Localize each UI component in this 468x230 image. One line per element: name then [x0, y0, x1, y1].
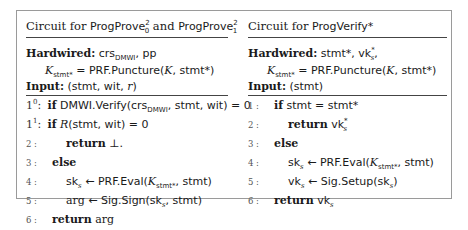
k-symbol: K: [267, 64, 275, 77]
hardwired-value: stmt*, vk*s,: [317, 47, 378, 60]
sub: s: [344, 125, 348, 133]
sup: 1: [33, 117, 37, 125]
algorithm-figure: Circuit for ProgProve20 and ProgProve21 …: [16, 10, 452, 199]
arg: arg: [92, 213, 114, 226]
code-tail: , stmt): [397, 156, 433, 169]
right-circuit-panel: Circuit for ProgVerify* Hardwired: stmt*…: [248, 11, 447, 210]
rest: , pp: [135, 47, 156, 60]
input-close: ): [132, 80, 136, 93]
keyword: else: [274, 137, 298, 150]
sub: stmt*: [156, 182, 175, 190]
prog-name-text: ProgProve: [178, 20, 233, 33]
hardwired-value: crsDMWI, pp: [99, 47, 157, 60]
line-number: 2 :: [26, 135, 52, 154]
right-panel-title: Circuit for ProgVerify*: [248, 15, 447, 38]
code-line-1-1: 11: if R(stmt, wit) = 0: [26, 115, 228, 134]
input-value: (stmt, wit,: [64, 80, 127, 93]
input-line: Input: (stmt, wit, r): [26, 79, 228, 96]
prog-name: ProgVerify*: [312, 20, 373, 33]
k-symbol: K: [45, 64, 53, 77]
input-line: Input: (stmt): [248, 79, 447, 96]
key-puncture-line: Kstmt* = PRF.Puncture(K, stmt*): [248, 62, 447, 79]
line-number: 6 :: [248, 192, 274, 211]
prog-name: ProgProve21: [178, 20, 237, 33]
code-tail: ): [393, 175, 397, 188]
code-line-4: 4 :sks ← PRF.Eval(Kstmt*, stmt): [26, 172, 228, 191]
code-text: DMWI.Verify(crs: [60, 99, 147, 112]
keyword: if: [48, 99, 57, 112]
code-mid: ← Sig.Setup(sk: [304, 175, 389, 188]
code-mid: ← PRF.Eval(: [304, 156, 370, 169]
hardwired-line: Hardwired: stmt*, vk*s,: [248, 45, 447, 62]
code: ⊥.: [106, 137, 123, 150]
hardwired-line: Hardwired: crsDMWI, pp: [26, 45, 228, 62]
line-number: 3 :: [248, 135, 274, 154]
line-number: 2 :: [248, 116, 274, 135]
code-line-3: 3 :else: [248, 134, 447, 153]
keyword: return: [288, 118, 328, 131]
k-symbol: K: [370, 156, 378, 169]
hardwired-label: Hardwired:: [248, 47, 317, 60]
keyword: if: [274, 99, 283, 112]
left-panel-title: Circuit for ProgProve20 and ProgProve21: [26, 15, 228, 38]
k-symbol: K: [148, 175, 156, 188]
code-line-5: 5 :vks ← Sig.Setup(sks): [248, 172, 447, 191]
sub: DMWI: [115, 54, 135, 62]
line-number: 5 :: [26, 192, 52, 211]
sub: stmt*: [275, 71, 294, 79]
code: (stmt, wit) = 0: [68, 118, 148, 131]
sup: 0: [33, 98, 37, 106]
sub: stmt*: [378, 163, 397, 171]
title-and: and: [149, 19, 178, 33]
sub: stmt*: [53, 71, 72, 79]
sub: 1: [233, 27, 237, 35]
k-tail: , stmt*): [173, 64, 215, 77]
arg: arg: [66, 194, 85, 207]
line-number: 11:: [26, 115, 44, 134]
k-eq: = PRF.Puncture(: [295, 64, 387, 77]
input-label: Input:: [26, 80, 64, 93]
code: vk: [328, 118, 344, 131]
code-mid: ← PRF.Eval(: [82, 175, 148, 188]
keyword: return: [274, 194, 314, 207]
key-puncture-line: Kstmt* = PRF.Puncture(K, stmt*): [26, 62, 228, 79]
title-prefix: Circuit for: [26, 19, 90, 33]
code-line-1-0: 10: if DMWI.Verify(crsDMWI, stmt, wit) =…: [26, 96, 228, 115]
code-line-3: 3 :else: [26, 153, 228, 172]
code: sk: [288, 156, 300, 169]
line-number: 1 :: [248, 97, 274, 116]
line-number: 10:: [26, 96, 44, 115]
crs: crs: [99, 47, 115, 60]
line-number: 4 :: [248, 154, 274, 173]
code: vk: [314, 194, 330, 207]
line-number: 5 :: [248, 173, 274, 192]
input-label: Input:: [248, 80, 286, 93]
code: ← Sig.Sign(sk: [85, 194, 162, 207]
code: sk: [66, 175, 78, 188]
code: vk: [288, 175, 301, 188]
code-tail: , stmt): [175, 175, 211, 188]
k-arg: K: [164, 64, 172, 77]
sub: DMWI: [147, 106, 167, 114]
keyword: return: [52, 213, 92, 226]
title-prefix: Circuit for: [248, 19, 312, 33]
keyword: if: [48, 118, 57, 131]
code-line-5: 5 :arg ← Sig.Sign(sks, stmt): [26, 191, 228, 210]
code-line-6: 6 :return vks: [248, 191, 447, 210]
code-line-4: 4 :sks ← PRF.Eval(Kstmt*, stmt): [248, 153, 447, 172]
input-value: (stmt): [286, 80, 323, 93]
line-number: 3 :: [26, 154, 52, 173]
left-circuit-panel: Circuit for ProgProve20 and ProgProve21 …: [26, 11, 228, 229]
code: DMWI.Verify(crsDMWI, stmt, wit) = 0: [60, 99, 251, 112]
keyword: return: [66, 137, 106, 150]
relation-r: R: [60, 118, 68, 131]
k-arg: K: [386, 64, 394, 77]
tail: ,: [374, 47, 378, 60]
value: stmt*, vk: [317, 47, 371, 60]
num: 1: [26, 99, 33, 112]
prog-name-text: ProgProve: [90, 20, 145, 33]
code-tail: , stmt, wit) = 0: [168, 99, 251, 112]
prog-name: ProgProve20: [90, 20, 149, 33]
code: stmt = stmt*: [283, 99, 358, 112]
code-line-2: 2 :return vk*s: [248, 115, 447, 134]
